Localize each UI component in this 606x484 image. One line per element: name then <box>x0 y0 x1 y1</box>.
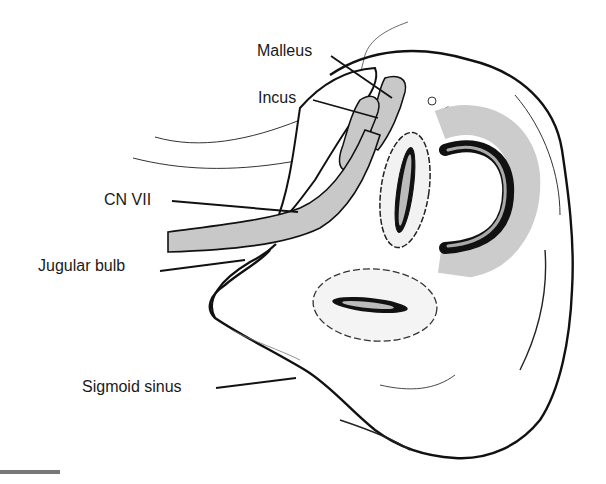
label-jugular-bulb: Jugular bulb <box>38 257 125 275</box>
label-sigmoid-sinus: Sigmoid sinus <box>82 378 182 396</box>
label-malleus: Malleus <box>257 42 312 60</box>
sigmoid-leader <box>216 378 296 388</box>
scale-bar <box>0 470 60 474</box>
label-incus: Incus <box>258 89 296 107</box>
jugular-leader <box>160 260 245 271</box>
ossicle-detail-1 <box>428 97 436 105</box>
cn7-leader <box>172 201 298 212</box>
lower-right-contour <box>520 250 546 370</box>
anatomy-drawing <box>0 0 606 484</box>
superior-canal <box>445 146 508 248</box>
label-cn7: CN VII <box>104 191 151 209</box>
bottom-contour-2 <box>380 375 455 389</box>
